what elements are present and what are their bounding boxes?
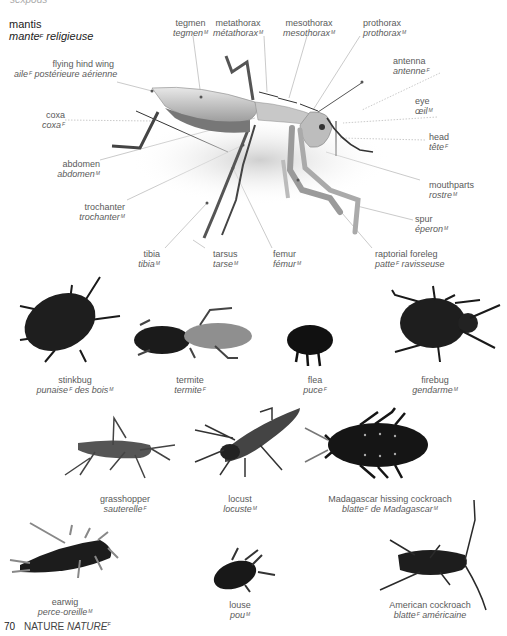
termite-illustration bbox=[134, 308, 252, 358]
label-eye: eye œilM bbox=[415, 96, 433, 116]
page-title: mantis manteF religieuse bbox=[9, 18, 93, 42]
title-fr: manteF religieuse bbox=[9, 30, 93, 42]
louse-illustration bbox=[210, 548, 275, 595]
section-fr: NATUREF bbox=[67, 621, 110, 632]
caption-locust: locust locusteM bbox=[205, 494, 275, 514]
caption-termite: termite termiteF bbox=[150, 375, 230, 395]
label-antenna: antenna antenneF bbox=[393, 56, 430, 76]
label-coxa: coxa coxaF bbox=[20, 110, 65, 130]
label-raptorial-foreleg: raptorial foreleg patteF ravisseuse bbox=[375, 249, 445, 269]
caption-flea: flea puceF bbox=[290, 375, 340, 395]
label-prothorax: prothorax prothoraxM bbox=[363, 18, 406, 38]
american-cockroach-illustration bbox=[380, 500, 486, 610]
label-metathorax: metathorax métathoraxM bbox=[213, 18, 263, 38]
label-head: head têteF bbox=[429, 132, 449, 152]
label-abdomen: abdomen abdomenM bbox=[40, 159, 100, 179]
locust-illustration bbox=[195, 408, 300, 477]
label-mouthparts: mouthparts rostreM bbox=[429, 180, 474, 200]
caption-madagascar-cockroach: Madagascar hissing cockroach blatteF de … bbox=[315, 494, 465, 514]
firebug-illustration bbox=[392, 286, 500, 362]
caption-earwig: earwig perce-oreilleM bbox=[25, 597, 105, 617]
caption-firebug: firebug gendarmeM bbox=[395, 375, 475, 395]
madagascar-cockroach-illustration bbox=[305, 408, 428, 478]
flea-illustration bbox=[287, 325, 333, 366]
label-tegmen: tegmen tegmenM bbox=[173, 18, 208, 38]
earwig-illustration bbox=[10, 523, 118, 578]
section-en: NATURE bbox=[24, 621, 64, 632]
caption-stinkbug: stinkbug punaiseF des boisM bbox=[25, 375, 125, 395]
label-mesothorax: mesothorax mesothoraxM bbox=[283, 18, 335, 38]
page-number: 70 bbox=[4, 621, 15, 632]
grasshopper-illustration bbox=[65, 418, 175, 478]
label-tarsus: tarsus tarseM bbox=[213, 249, 238, 269]
caption-louse: louse pouM bbox=[215, 600, 265, 620]
caption-american-cockroach: American cockroach blatteF américaine bbox=[375, 600, 485, 620]
mantis-shadow bbox=[130, 115, 390, 205]
label-femur: femur fémurM bbox=[273, 249, 301, 269]
page-footer: 70 NATURE NATUREF bbox=[4, 621, 111, 632]
caption-grasshopper: grasshopper sauterelleF bbox=[85, 494, 165, 514]
label-spur: spur éperonM bbox=[415, 214, 448, 234]
title-en: mantis bbox=[9, 18, 41, 30]
label-tibia: tibia tibiaM bbox=[120, 249, 160, 269]
cut-header-text: sexpods bbox=[10, 0, 47, 5]
stinkbug-illustration bbox=[15, 277, 120, 362]
label-flying-hind-wing: flying hind wing aileF postérieure aérie… bbox=[14, 59, 114, 79]
label-trochanter: trochanter trochanterM bbox=[50, 202, 125, 222]
